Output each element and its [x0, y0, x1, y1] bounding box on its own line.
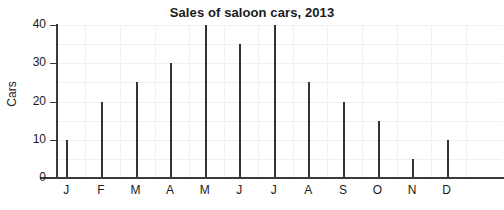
gridline-vertical: [120, 25, 121, 178]
x-tick-mark: [170, 171, 171, 178]
gridline-horizontal: [56, 44, 502, 45]
bar-o-9: [378, 121, 380, 178]
bar-f-1: [101, 102, 103, 179]
y-tick-label: 0: [6, 170, 46, 184]
gridline-horizontal: [56, 82, 502, 83]
gridline-vertical: [155, 25, 156, 178]
bar-a-7: [308, 82, 310, 178]
x-axis-line: [40, 177, 504, 179]
y-tick-mark: [50, 63, 56, 64]
y-tick-mark: [50, 25, 56, 26]
x-tick-mark: [101, 171, 102, 178]
x-tick-label: O: [366, 183, 390, 197]
x-tick-label: J: [227, 183, 251, 197]
chart-title: Sales of saloon cars, 2013: [0, 5, 504, 20]
x-tick-label: J: [262, 183, 286, 197]
y-tick-mark: [50, 178, 56, 179]
x-tick-label: S: [331, 183, 355, 197]
x-tick-mark: [136, 171, 137, 178]
bar-s-8: [343, 102, 345, 179]
gridline-vertical: [189, 25, 190, 178]
x-tick-mark: [274, 171, 275, 178]
gridline-vertical: [327, 25, 328, 178]
x-tick-mark: [239, 171, 240, 178]
y-tick-label: 30: [6, 55, 46, 69]
gridline-horizontal: [56, 159, 502, 160]
x-tick-label: N: [400, 183, 424, 197]
x-tick-label: F: [89, 183, 113, 197]
gridline-vertical: [466, 25, 467, 178]
y-tick-mark: [50, 140, 56, 141]
gridline-vertical: [397, 25, 398, 178]
gridline-vertical: [85, 25, 86, 178]
gridline-vertical: [293, 25, 294, 178]
x-tick-mark: [205, 171, 206, 178]
y-tick-label: 40: [6, 17, 46, 31]
x-tick-label: M: [193, 183, 217, 197]
gridline-vertical: [362, 25, 363, 178]
y-tick-label: 20: [6, 94, 46, 108]
x-tick-mark: [412, 171, 413, 178]
y-tick-label: 10: [6, 132, 46, 146]
x-tick-label: M: [124, 183, 148, 197]
gridline-vertical: [431, 25, 432, 178]
x-tick-label: A: [296, 183, 320, 197]
gridline-horizontal: [56, 63, 502, 64]
x-tick-label: D: [435, 183, 459, 197]
plot-area: [56, 25, 502, 178]
x-tick-mark: [343, 171, 344, 178]
x-tick-label: A: [158, 183, 182, 197]
bar-j-5: [239, 44, 241, 178]
gridline-horizontal: [56, 102, 502, 103]
gridline-vertical: [258, 25, 259, 178]
bar-m-2: [136, 82, 138, 178]
y-axis-line: [56, 24, 58, 179]
x-tick-mark: [66, 171, 67, 178]
bar-a-3: [170, 63, 172, 178]
bar-m-4: [205, 25, 207, 178]
bar-j-6: [274, 25, 276, 178]
gridline-horizontal: [56, 121, 502, 122]
x-tick-mark: [308, 171, 309, 178]
gridline-horizontal: [56, 25, 502, 26]
x-tick-mark: [378, 171, 379, 178]
x-tick-label: J: [54, 183, 78, 197]
gridline-vertical: [224, 25, 225, 178]
x-tick-mark: [447, 171, 448, 178]
y-tick-mark: [50, 102, 56, 103]
chart-container: Sales of saloon cars, 2013 Cars 01020304…: [0, 0, 504, 210]
gridline-horizontal: [56, 140, 502, 141]
